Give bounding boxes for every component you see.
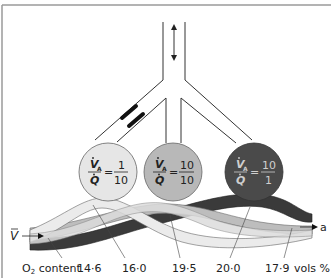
equals-sign: =	[104, 166, 113, 179]
double-arrow-icon	[171, 24, 177, 61]
alveolus-high-vq: V A Q = 10 1	[225, 143, 283, 201]
alveolus-low-vq: V A Q = 1 10	[79, 143, 137, 201]
vq-numerator-sub: A	[243, 165, 248, 172]
ratio-value-denominator: 10	[180, 174, 194, 187]
vq-numerator-sub: A	[162, 165, 167, 172]
capillaries	[30, 194, 312, 250]
o2-value-arterial: 17·9	[265, 262, 290, 275]
o2-value-mixed-left: 16·0	[122, 262, 147, 275]
vq-numerator-sub: A	[97, 165, 102, 172]
o2-value-high-vq: 20·0	[216, 262, 241, 275]
svg-text:O2 content: O2 content	[22, 262, 81, 276]
units-label: vols %	[294, 262, 330, 275]
vq-diagram: V A Q = 1 10 V A Q = 10 10 V	[0, 0, 332, 278]
equals-sign: =	[250, 166, 259, 179]
alveolus-normal-vq: V A Q = 10 10	[144, 143, 202, 201]
vq-denominator-symbol: Q	[90, 174, 99, 187]
venous-label: V	[10, 229, 19, 243]
vq-denominator-symbol: Q	[155, 174, 164, 187]
ratio-value-denominator: 1	[265, 174, 272, 187]
arterial-label: a	[320, 221, 327, 234]
arrow-right-icon	[312, 224, 318, 230]
o2-value-normal-vq: 19·5	[172, 262, 197, 275]
vq-denominator-symbol: Q	[236, 174, 245, 187]
ratio-value-numerator: 10	[262, 159, 276, 172]
ratio-value-numerator: 10	[180, 159, 194, 172]
o2-content-labels: O2 content 14·6 16·0 19·5 20·0 17·9 vols…	[22, 262, 330, 276]
o2-value-low-vq: 14·6	[77, 262, 102, 275]
ratio-value-denominator: 10	[114, 174, 128, 187]
o2-label-suffix: content	[35, 262, 81, 275]
obstruction-bars	[122, 106, 143, 126]
equals-sign: =	[169, 166, 178, 179]
ratio-value-numerator: 1	[118, 159, 125, 172]
o2-label-prefix: O	[22, 262, 31, 275]
